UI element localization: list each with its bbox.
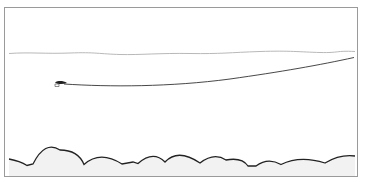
water-surface: [9, 51, 355, 54]
fishing-line: [64, 58, 354, 86]
fly-drift-diagram: [0, 0, 365, 182]
stream-bottom-fill: [9, 147, 355, 176]
